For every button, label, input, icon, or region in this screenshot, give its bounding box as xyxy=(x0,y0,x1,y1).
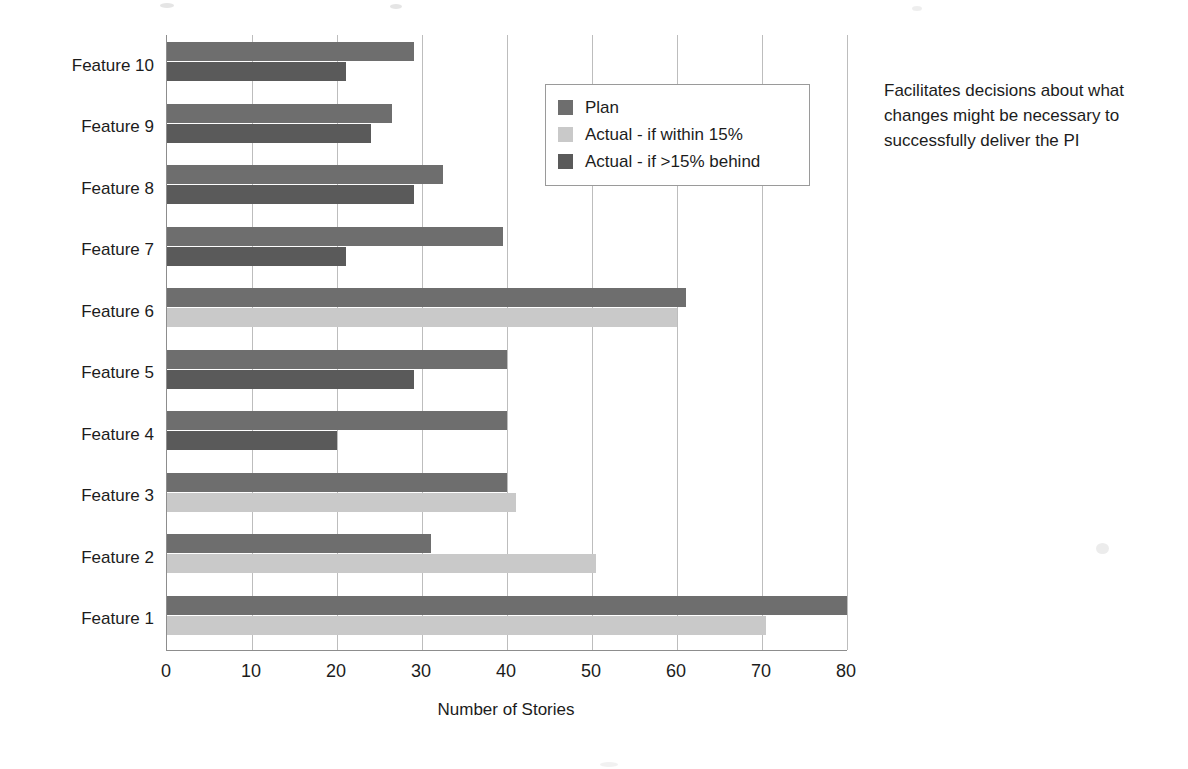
plan-swatch xyxy=(558,100,573,115)
y-axis-tick-label: Feature 7 xyxy=(34,241,154,258)
bar-group xyxy=(167,589,847,651)
bar-plan xyxy=(167,165,443,184)
y-axis-tick-label: Feature 3 xyxy=(34,487,154,504)
bar-actual xyxy=(167,370,414,389)
bar-actual xyxy=(167,554,596,573)
actual-within-swatch xyxy=(558,127,573,142)
legend-label: Actual - if within 15% xyxy=(585,126,743,143)
y-axis-tick-label: Feature 5 xyxy=(34,364,154,381)
bar-plan xyxy=(167,288,686,307)
actual-behind-swatch xyxy=(558,154,573,169)
y-axis-tick-label: Feature 1 xyxy=(34,610,154,627)
y-axis-tick-label: Feature 9 xyxy=(34,118,154,135)
scan-speck xyxy=(600,762,618,767)
x-axis-title: Number of Stories xyxy=(166,700,846,720)
x-axis-tick-labels: 01020304050607080 xyxy=(0,660,1188,686)
legend-label: Actual - if >15% behind xyxy=(585,153,760,170)
y-axis-labels: Feature 1Feature 2Feature 3Feature 4Feat… xyxy=(24,35,154,650)
bar-actual xyxy=(167,124,371,143)
bar-plan xyxy=(167,534,431,553)
bar-plan xyxy=(167,227,503,246)
y-axis-tick-label: Feature 6 xyxy=(34,303,154,320)
bar-group xyxy=(167,220,847,282)
x-axis-tick-label: 10 xyxy=(221,660,281,682)
bar-actual xyxy=(167,616,766,635)
y-axis-tick-label: Feature 2 xyxy=(34,549,154,566)
chart-page: Feature 1Feature 2Feature 3Feature 4Feat… xyxy=(0,0,1188,769)
bar-actual xyxy=(167,431,337,450)
bar-plan xyxy=(167,42,414,61)
x-axis-tick-label: 60 xyxy=(646,660,706,682)
bar-group xyxy=(167,466,847,528)
gridline-80 xyxy=(847,35,848,650)
scan-speck xyxy=(912,6,922,11)
bar-plan xyxy=(167,350,507,369)
bar-group xyxy=(167,527,847,589)
chart-legend: PlanActual - if within 15%Actual - if >1… xyxy=(545,84,810,186)
x-axis-tick-label: 70 xyxy=(731,660,791,682)
bar-group xyxy=(167,281,847,343)
scan-speck xyxy=(390,4,402,9)
x-axis-tick-label: 20 xyxy=(306,660,366,682)
scan-speck xyxy=(1096,543,1109,554)
x-axis-tick-label: 50 xyxy=(561,660,621,682)
bar-group xyxy=(167,404,847,466)
bar-plan xyxy=(167,596,847,615)
x-axis-tick-label: 40 xyxy=(476,660,536,682)
scan-speck xyxy=(160,3,174,8)
bar-actual xyxy=(167,247,346,266)
x-axis-tick-label: 30 xyxy=(391,660,451,682)
annotation-text: Facilitates decisions about what changes… xyxy=(884,78,1144,153)
x-axis-tick-label: 0 xyxy=(136,660,196,682)
y-axis-tick-label: Feature 10 xyxy=(34,57,154,74)
bar-plan xyxy=(167,411,507,430)
legend-item: Actual - if within 15% xyxy=(558,121,799,148)
bar-actual xyxy=(167,308,677,327)
bar-actual xyxy=(167,493,516,512)
y-axis-tick-label: Feature 4 xyxy=(34,426,154,443)
x-axis-tick-label: 80 xyxy=(816,660,876,682)
bar-plan xyxy=(167,104,392,123)
legend-item: Plan xyxy=(558,94,799,121)
bar-actual xyxy=(167,62,346,81)
bar-actual xyxy=(167,185,414,204)
bar-plan xyxy=(167,473,507,492)
bar-group xyxy=(167,343,847,405)
legend-item: Actual - if >15% behind xyxy=(558,148,799,175)
legend-label: Plan xyxy=(585,99,619,116)
y-axis-tick-label: Feature 8 xyxy=(34,180,154,197)
